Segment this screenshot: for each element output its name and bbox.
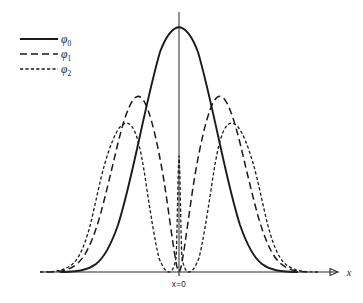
legend-subscript-phi1: 1 <box>67 54 71 63</box>
x-axis-label: x <box>346 267 352 278</box>
plot-canvas: x=0 x φ0 φ1 φ2 <box>0 0 363 303</box>
legend-subscript-phi2: 2 <box>67 69 71 78</box>
harmonic-oscillator-figure: x=0 x φ0 φ1 φ2 <box>0 0 363 303</box>
x-origin-label: x=0 <box>172 280 187 289</box>
legend-subscript-phi0: 0 <box>67 39 71 48</box>
legend: φ0 φ1 φ2 <box>20 33 71 78</box>
legend-entry-phi0: φ0 <box>20 33 71 48</box>
legend-label-phi0: φ0 <box>61 33 71 48</box>
legend-label-phi1: φ1 <box>61 48 71 63</box>
legend-label-phi2: φ2 <box>61 63 71 78</box>
legend-entry-phi2: φ2 <box>20 63 71 78</box>
legend-entry-phi1: φ1 <box>20 48 71 63</box>
